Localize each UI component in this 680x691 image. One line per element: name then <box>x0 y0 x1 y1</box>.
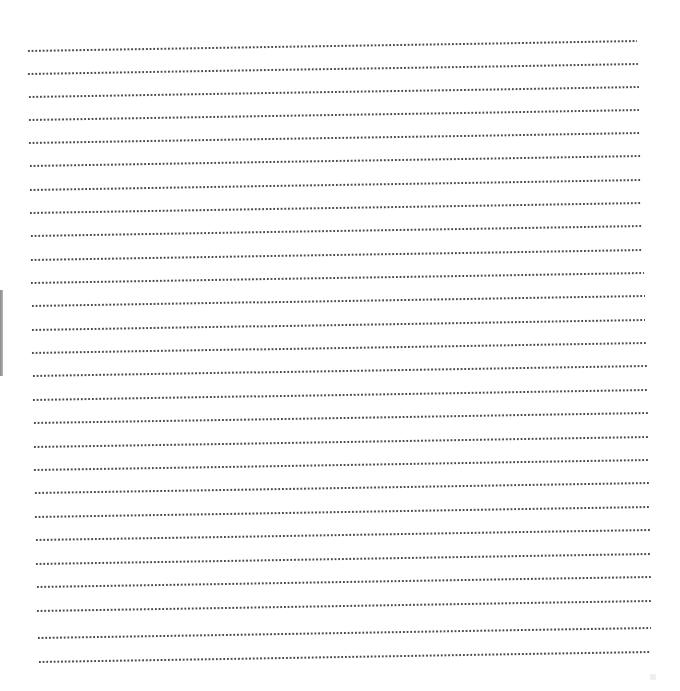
dotted-line <box>28 132 640 144</box>
dotted-line <box>31 319 645 331</box>
dotted-line <box>33 459 649 471</box>
dotted-line <box>30 249 643 261</box>
dotted-line <box>31 342 646 354</box>
dotted-line <box>33 412 648 424</box>
dotted-line <box>29 155 641 167</box>
dotted-line <box>30 225 643 237</box>
dotted-line <box>30 272 644 284</box>
writing-sheet <box>0 0 680 691</box>
dotted-line <box>32 365 647 377</box>
dotted-line <box>38 651 651 663</box>
dotted-line <box>29 202 642 214</box>
dotted-line <box>33 436 649 448</box>
dotted-line <box>34 482 650 494</box>
dotted-line <box>28 86 639 98</box>
dotted-line <box>27 40 637 52</box>
dotted-line <box>31 295 645 307</box>
dotted-line <box>32 389 647 401</box>
dotted-line <box>29 179 641 191</box>
dotted-lines-container <box>0 0 680 691</box>
dotted-line <box>27 63 638 75</box>
dotted-line <box>35 529 651 541</box>
dotted-line <box>36 600 651 612</box>
dotted-line <box>35 553 651 565</box>
scan-smudge <box>650 674 656 680</box>
dotted-line <box>28 109 639 121</box>
dotted-line <box>34 506 650 518</box>
dotted-line <box>37 627 651 639</box>
dotted-line <box>36 576 651 588</box>
